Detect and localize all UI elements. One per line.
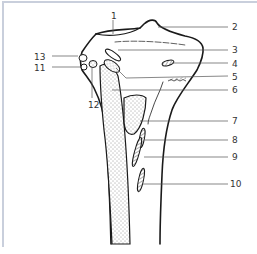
structure-11 — [81, 64, 87, 70]
structure-10 — [136, 168, 146, 193]
callout-label-8: 8 — [232, 135, 238, 145]
callout-label-11: 11 — [34, 63, 45, 73]
callout-label-3: 3 — [232, 45, 238, 55]
callout-label-13: 13 — [34, 52, 45, 62]
callout-label-6: 6 — [232, 85, 238, 95]
bone-diagram — [0, 0, 257, 254]
callout-label-10: 10 — [230, 179, 241, 189]
structure-9 — [131, 137, 144, 167]
callout-label-12: 12 — [88, 100, 99, 110]
callout-label-7: 7 — [232, 116, 238, 126]
callout-label-4: 4 — [232, 59, 238, 69]
callout-label-5: 5 — [232, 72, 238, 82]
callout-label-9: 9 — [232, 152, 238, 162]
structure-13 — [79, 55, 87, 62]
stippled-band — [100, 64, 130, 244]
callout-label-2: 2 — [232, 22, 238, 32]
structure-12 — [89, 61, 97, 68]
callout-label-1: 1 — [111, 11, 117, 21]
